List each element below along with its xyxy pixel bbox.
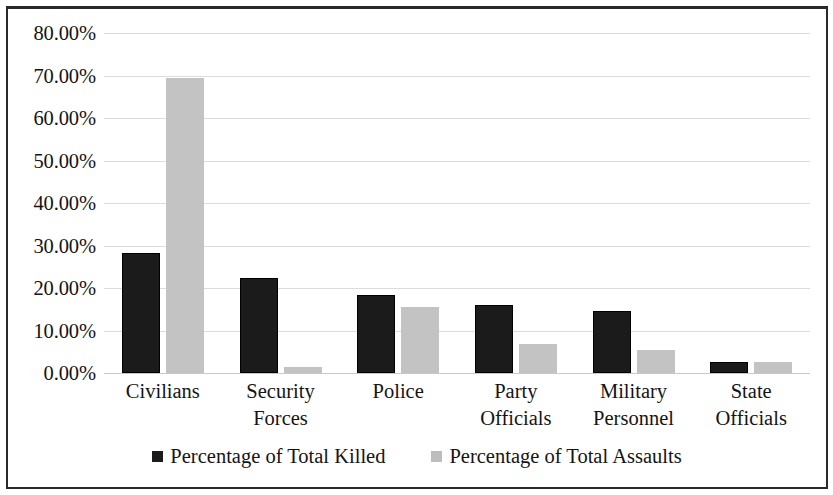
x-axis: CiviliansSecurityForcesPolicePartyOffici… (104, 378, 810, 440)
legend-item-label: Percentage of Total Assaults (449, 445, 681, 468)
y-axis-tick-label: 40.00% (33, 192, 96, 215)
x-axis-category-label-line: Personnel (575, 405, 693, 432)
gridline (104, 373, 810, 374)
bar (710, 362, 748, 373)
bar (401, 307, 439, 373)
bar (122, 253, 160, 373)
legend-item[interactable]: Percentage of Total Assaults (431, 445, 681, 468)
y-axis-tick-label: 80.00% (33, 22, 96, 45)
y-axis-tick-label: 70.00% (33, 64, 96, 87)
bar (166, 78, 204, 373)
x-axis-category-label-line: Forces (222, 405, 340, 432)
legend-item[interactable]: Percentage of Total Killed (152, 445, 385, 468)
bar-group (575, 33, 693, 373)
x-axis-category-label: Civilians (104, 378, 222, 440)
x-axis-category-label-line: Party (457, 378, 575, 405)
x-axis-category-label: StateOfficials (692, 378, 810, 440)
x-axis-category-label-line: Officials (692, 405, 810, 432)
y-axis-tick-label: 60.00% (33, 107, 96, 130)
bar-series-layer (104, 33, 810, 373)
bar (284, 367, 322, 373)
bar (754, 362, 792, 373)
chart-legend: Percentage of Total KilledPercentage of … (6, 445, 828, 468)
gray-square-marker-icon (431, 451, 442, 462)
figure-border-top (6, 6, 828, 9)
x-axis-category-label-line: Police (339, 378, 457, 405)
x-axis-category-label-line: Security (222, 378, 340, 405)
x-axis-category-label: Police (339, 378, 457, 440)
bar (357, 295, 395, 373)
black-square-marker-icon (152, 451, 163, 462)
bar-chart-figure: 80.00%70.00%60.00%50.00%40.00%30.00%20.0… (0, 0, 833, 495)
figure-border-bottom (6, 487, 828, 489)
y-axis: 80.00%70.00%60.00%50.00%40.00%30.00%20.0… (6, 24, 102, 373)
y-axis-tick-label: 30.00% (33, 234, 96, 257)
legend-item-label: Percentage of Total Killed (170, 445, 385, 468)
bar-group (104, 33, 222, 373)
y-axis-tick-label: 10.00% (33, 319, 96, 342)
bar (593, 311, 631, 373)
x-axis-category-label-line: Civilians (104, 378, 222, 405)
x-axis-category-label: SecurityForces (222, 378, 340, 440)
x-axis-category-label-line: Military (575, 378, 693, 405)
bar (240, 278, 278, 373)
y-axis-tick-label: 0.00% (44, 362, 96, 385)
y-axis-tick-label: 50.00% (33, 149, 96, 172)
figure-border-right (826, 6, 828, 489)
x-axis-category-label-line: State (692, 378, 810, 405)
bar (637, 350, 675, 373)
bar (475, 305, 513, 373)
x-axis-category-label: PartyOfficials (457, 378, 575, 440)
bar (519, 344, 557, 373)
y-axis-tick-label: 20.00% (33, 277, 96, 300)
x-axis-category-label-line: Officials (457, 405, 575, 432)
bar-group (222, 33, 340, 373)
x-axis-category-label: MilitaryPersonnel (575, 378, 693, 440)
bar-group (457, 33, 575, 373)
bar-group (692, 33, 810, 373)
plot-area (104, 24, 810, 373)
bar-group (339, 33, 457, 373)
